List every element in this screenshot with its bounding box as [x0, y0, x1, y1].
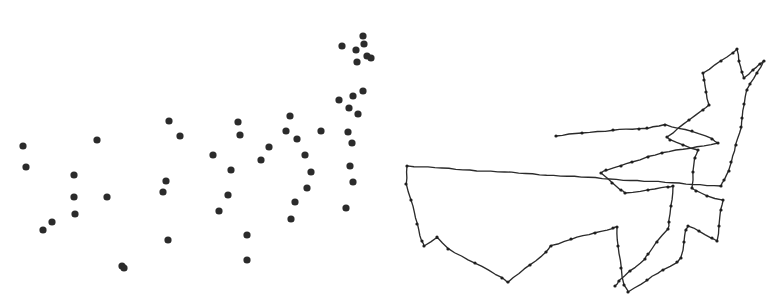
scatter-point [317, 127, 324, 134]
scatter-point [303, 184, 310, 191]
boundary-vertex [645, 278, 648, 281]
boundary-vertex [669, 204, 672, 207]
boundary-vertex [435, 235, 438, 238]
boundary-vertex [691, 170, 694, 173]
scatter-point [349, 178, 356, 185]
boundary-vertex [693, 156, 696, 159]
scatter-point [367, 54, 374, 61]
boundary-vertex [405, 164, 408, 167]
scatter-point [236, 131, 243, 138]
boundary-vertex [719, 208, 722, 211]
boundary-vertex [593, 231, 596, 234]
scatter-point [353, 58, 360, 65]
scatter-point [349, 92, 356, 99]
boundary-vertex [617, 279, 620, 282]
boundary-vertex [731, 51, 734, 54]
scatter-point [265, 143, 272, 150]
boundary-vertex [610, 181, 613, 184]
scatter-point [287, 215, 294, 222]
boundary-vertex [663, 123, 666, 126]
scatter-plot [0, 0, 389, 305]
boundary-outline-path [406, 49, 764, 292]
boundary-vertex [742, 76, 745, 79]
scatter-point [39, 226, 46, 233]
boundary-vertex [604, 168, 607, 171]
scatter-point [162, 177, 169, 184]
scatter-point [360, 40, 367, 47]
boundary-vertex [626, 290, 629, 293]
boundary-vertex [643, 257, 646, 260]
boundary-vertex [549, 244, 552, 247]
boundary-vertex [616, 244, 619, 247]
boundary-vertex [690, 186, 693, 189]
scatter-point [354, 110, 361, 117]
boundary-vertex [630, 160, 633, 163]
boundary-vertex [622, 283, 625, 286]
scatter-panel [0, 0, 389, 305]
boundary-vertex [473, 261, 476, 264]
boundary-vertex [697, 229, 700, 232]
scatter-point [70, 171, 77, 178]
scatter-point [159, 188, 166, 195]
scatter-point [335, 96, 342, 103]
boundary-vertex [719, 184, 722, 187]
boundary-vertex [710, 137, 713, 140]
boundary-vertex [628, 269, 631, 272]
scatter-point [344, 128, 351, 135]
boundary-vertex [737, 59, 740, 62]
scatter-point [22, 163, 29, 170]
boundary-vertex [740, 116, 743, 119]
boundary-vertex [715, 239, 718, 242]
boundary-vertex [735, 47, 738, 50]
boundary-vertex [661, 268, 664, 271]
boundary-vertex [599, 171, 602, 174]
boundary-vertex [666, 227, 669, 230]
boundary-vertex [739, 125, 742, 128]
scatter-point [291, 198, 298, 205]
scatter-point [307, 168, 314, 175]
boundary-vertex [684, 228, 687, 231]
boundary-vertex [528, 263, 531, 266]
boundary-vertex [671, 184, 674, 187]
scatter-point [342, 204, 349, 211]
scatter-point [348, 139, 355, 146]
scatter-point [120, 264, 127, 271]
scatter-point [243, 231, 250, 238]
boundary-vertex [679, 256, 682, 259]
boundary-vertex [745, 88, 748, 91]
boundary-vertex [623, 191, 626, 194]
boundary-vertex [655, 240, 658, 243]
boundary-vertex [554, 134, 557, 137]
boundary-vertex [619, 164, 622, 167]
scatter-point [165, 117, 172, 124]
boundary-vertex [719, 59, 722, 62]
boundary-vertex [686, 224, 689, 227]
scatter-point [352, 46, 359, 53]
boundary-vertex [758, 62, 761, 65]
boundary-vertex [682, 240, 685, 243]
boundary-vertex [740, 70, 743, 73]
boundary-vertex [702, 78, 705, 81]
boundary-vertex [544, 250, 547, 253]
boundary-vertex [717, 224, 720, 227]
boundary-vertex [727, 169, 730, 172]
boundary-vertex [422, 244, 425, 247]
boundary-vertex [404, 182, 407, 185]
boundary-vertex [668, 138, 671, 141]
boundary-vertex [722, 178, 725, 181]
boundary-vertex [446, 247, 449, 250]
scatter-point [176, 132, 183, 139]
scatter-point [19, 142, 26, 149]
boundary-vertex [701, 108, 704, 111]
scatter-point [345, 104, 352, 111]
boundary-vertex [748, 82, 751, 85]
scatter-point [286, 112, 293, 119]
boundary-vertex [646, 155, 649, 158]
boundary-vertex-group [404, 47, 765, 293]
scatter-point [359, 87, 366, 94]
boundary-vertex [707, 103, 710, 106]
boundary-vertex [613, 284, 616, 287]
boundary-vertex [666, 185, 669, 188]
scatter-point [70, 193, 77, 200]
boundary-vertex [704, 90, 707, 93]
